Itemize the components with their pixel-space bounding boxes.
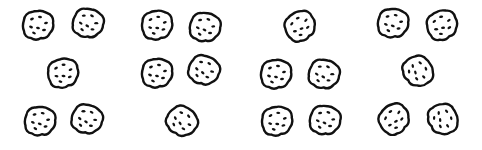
cookie-icon <box>424 8 460 42</box>
cookie-icon <box>376 102 412 136</box>
cookie-icon <box>187 10 223 44</box>
cookie-icon <box>259 104 295 138</box>
cookie-icon <box>139 8 175 42</box>
cookie-icon <box>282 9 318 43</box>
cookie-icon <box>164 104 200 138</box>
cookie-icon <box>400 54 436 88</box>
cookie-icon <box>307 103 343 137</box>
cookie-icon <box>258 57 294 91</box>
cookie-icon <box>22 104 58 138</box>
cookie-icon <box>45 56 81 90</box>
cookie-icon <box>186 53 222 87</box>
cookie-icon <box>20 8 56 42</box>
cookie-icon <box>425 102 461 136</box>
cookie-icon <box>139 56 175 90</box>
cookie-icon <box>306 57 342 91</box>
cookie-icon <box>70 6 106 40</box>
cookie-icon <box>375 6 411 40</box>
cookie-icon <box>69 102 105 136</box>
